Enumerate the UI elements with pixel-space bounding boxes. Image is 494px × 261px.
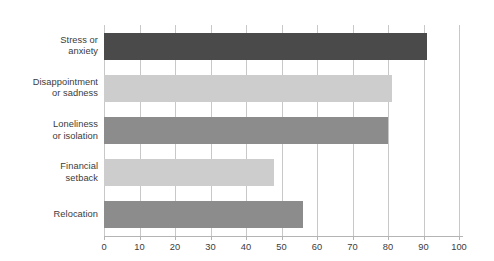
x-tick-mark [317, 236, 318, 240]
x-tick-mark [140, 236, 141, 240]
category-label: Relocation [0, 209, 98, 220]
x-tick-mark [175, 236, 176, 240]
x-tick-mark [246, 236, 247, 240]
x-tick-label: 20 [170, 242, 180, 253]
gridline [459, 25, 460, 236]
bar[interactable] [104, 33, 427, 60]
x-tick-mark [424, 236, 425, 240]
bar[interactable] [104, 159, 274, 186]
x-tick-label: 90 [418, 242, 428, 253]
x-tick-label: 10 [134, 242, 144, 253]
x-tick-mark [211, 236, 212, 240]
x-tick-mark [388, 236, 389, 240]
bar[interactable] [104, 117, 388, 144]
x-tick-label: 30 [205, 242, 215, 253]
bar-chart: Stress or anxietyDisappointment or sadne… [0, 0, 494, 261]
category-axis: Stress or anxietyDisappointment or sadne… [0, 25, 98, 236]
category-label: Financial setback [0, 161, 98, 184]
x-tick-mark [104, 236, 105, 240]
x-tick-mark [353, 236, 354, 240]
bar[interactable] [104, 75, 392, 102]
category-label: Loneliness or isolation [0, 119, 98, 142]
x-tick-label: 70 [347, 242, 357, 253]
bar[interactable] [104, 201, 303, 228]
x-tick-label: 80 [383, 242, 393, 253]
x-tick-label: 50 [276, 242, 286, 253]
x-axis-line [104, 236, 463, 237]
category-label: Disappointment or sadness [0, 77, 98, 100]
x-tick-label: 40 [241, 242, 251, 253]
x-tick-label: 100 [451, 242, 467, 253]
x-tick-mark [282, 236, 283, 240]
x-tick-mark [459, 236, 460, 240]
x-tick-label: 60 [312, 242, 322, 253]
category-label: Stress or anxiety [0, 35, 98, 58]
x-tick-label: 0 [101, 242, 106, 253]
plot-area [104, 25, 459, 236]
